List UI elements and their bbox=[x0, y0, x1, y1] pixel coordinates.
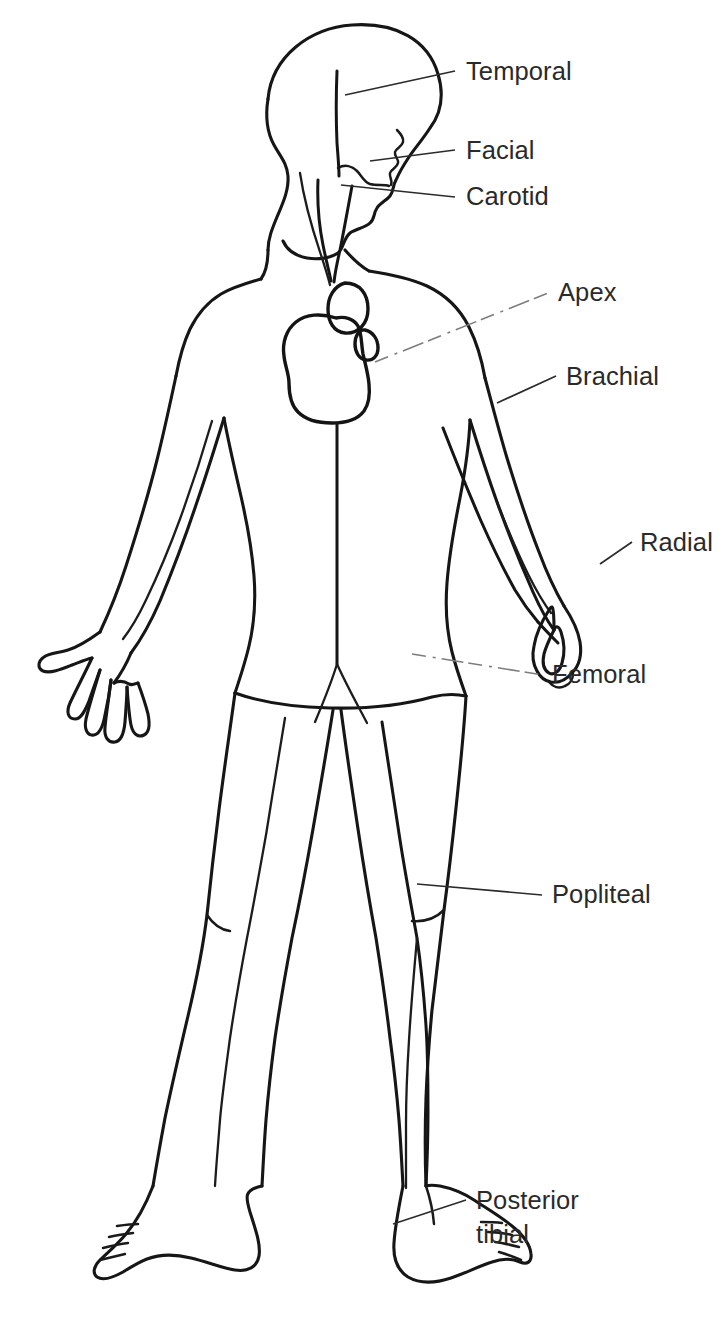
label-carotid: Carotid bbox=[466, 182, 549, 210]
label-femoral: Femoral bbox=[552, 660, 646, 688]
label-popliteal: Popliteal bbox=[552, 880, 651, 908]
label-apex: Apex bbox=[558, 278, 617, 306]
label-facial: Facial bbox=[466, 136, 535, 164]
anatomy-illustration: Temporal Facial Carotid Apex Brachial Ra… bbox=[0, 0, 718, 1328]
label-posterior-tibial: Posterior bbox=[476, 1186, 579, 1214]
label-temporal: Temporal bbox=[466, 57, 572, 85]
label-radial: Radial bbox=[640, 528, 713, 556]
label-posterior-tibial-line2: tibial bbox=[476, 1220, 529, 1248]
pulse-points-diagram: Temporal Facial Carotid Apex Brachial Ra… bbox=[0, 0, 718, 1328]
label-brachial: Brachial bbox=[566, 362, 659, 390]
